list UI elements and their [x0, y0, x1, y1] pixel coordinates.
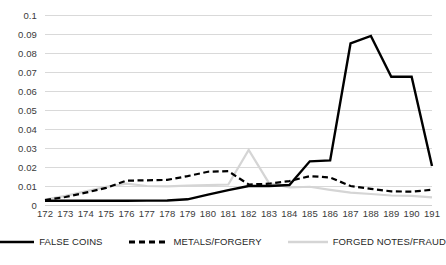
- x-tick-label: 174: [78, 208, 94, 219]
- x-tick-label: 172: [37, 208, 53, 219]
- solid-gray-line: [288, 237, 328, 247]
- x-tick-label: 175: [98, 208, 114, 219]
- solid-black-line: [0, 237, 34, 247]
- series-line: [45, 150, 432, 200]
- dashed-black-line: [129, 237, 169, 247]
- x-tick-label: 190: [404, 208, 420, 219]
- x-tick-label: 184: [281, 208, 297, 219]
- y-axis: 00.010.020.030.040.050.060.070.080.090.1: [0, 0, 42, 220]
- chart-legend: FALSE COINSMETALS/FORGERYFORGED NOTES/FR…: [0, 236, 440, 247]
- legend-entry[interactable]: FORGED NOTES/FRAUD: [288, 236, 446, 247]
- legend-entry[interactable]: FALSE COINS: [0, 236, 103, 247]
- series-layer: [45, 15, 432, 205]
- x-tick-label: 189: [383, 208, 399, 219]
- y-tick-label: 0.02: [18, 162, 37, 173]
- y-tick-label: 0.07: [18, 67, 37, 78]
- y-tick-label: 0.04: [18, 124, 37, 135]
- series-line: [45, 171, 432, 200]
- x-tick-label: 173: [57, 208, 73, 219]
- x-tick-label: 181: [220, 208, 236, 219]
- x-tick-label: 178: [159, 208, 175, 219]
- y-tick-label: 0.08: [18, 48, 37, 59]
- y-tick-label: 0.09: [18, 29, 37, 40]
- y-tick-label: 0.06: [18, 86, 37, 97]
- x-tick-label: 183: [261, 208, 277, 219]
- y-tick-label: 0.1: [23, 10, 37, 21]
- x-tick-label: 179: [180, 208, 196, 219]
- legend-label: FALSE COINS: [39, 236, 102, 247]
- x-tick-label: 176: [118, 208, 134, 219]
- x-tick-label: 180: [200, 208, 216, 219]
- legend-entry[interactable]: METALS/FORGERY: [129, 236, 262, 247]
- plot-area: [45, 15, 432, 205]
- x-tick-label: 185: [302, 208, 318, 219]
- x-tick-label: 191: [424, 208, 440, 219]
- series-line: [45, 36, 432, 201]
- x-tick-label: 177: [139, 208, 155, 219]
- x-tick-label: 186: [322, 208, 338, 219]
- gridline: [45, 205, 432, 206]
- legend-label: FORGED NOTES/FRAUD: [333, 236, 446, 247]
- y-tick-label: 0.03: [18, 143, 37, 154]
- y-tick-label: 0.05: [18, 105, 37, 116]
- x-tick-label: 182: [241, 208, 257, 219]
- x-tick-label: 188: [363, 208, 379, 219]
- x-tick-label: 187: [342, 208, 358, 219]
- legend-label: METALS/FORGERY: [174, 236, 262, 247]
- y-tick-label: 0.01: [18, 181, 37, 192]
- x-axis: 1721731741751761771781791801811821831841…: [45, 208, 432, 224]
